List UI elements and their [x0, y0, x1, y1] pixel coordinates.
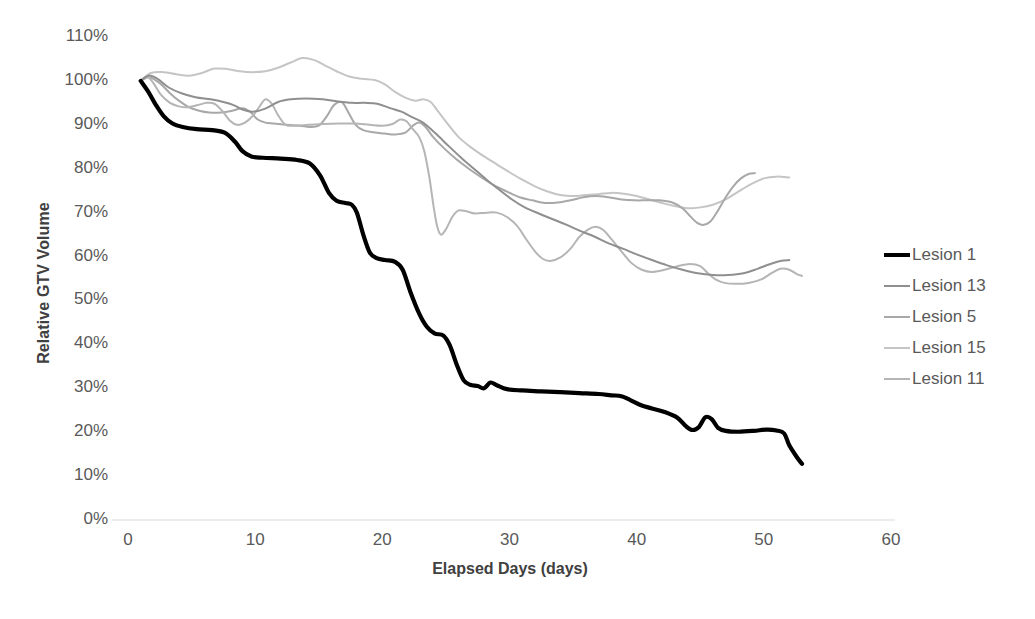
legend-item-label: Lesion 11 — [912, 369, 984, 389]
y-axis-tick-label: 20% — [34, 421, 108, 441]
x-axis-tick-label: 60 — [866, 530, 916, 550]
y-axis-tick-label: 100% — [34, 70, 108, 90]
legend-item-lesion-13[interactable]: Lesion 13 — [884, 271, 986, 300]
series-line-lesion-15 — [141, 58, 790, 208]
legend-swatch-icon — [884, 378, 910, 380]
legend-swatch-icon — [884, 347, 910, 349]
chart-legend: Lesion 1Lesion 13Lesion 5Lesion 15Lesion… — [884, 240, 986, 393]
legend-item-label: Lesion 15 — [912, 338, 986, 358]
series-line-lesion-13 — [141, 76, 790, 276]
legend-item-lesion-5[interactable]: Lesion 5 — [884, 302, 986, 331]
x-axis-tick-label: 40 — [612, 530, 662, 550]
y-axis-tick-label: 0% — [34, 509, 108, 529]
y-axis-tick-label: 90% — [34, 114, 108, 134]
y-axis-tick-label: 10% — [34, 465, 108, 485]
x-axis-tick-label: 50 — [739, 530, 789, 550]
x-axis-tick-label: 0 — [103, 530, 153, 550]
legend-item-lesion-1[interactable]: Lesion 1 — [884, 240, 986, 269]
x-axis-tick-label: 10 — [230, 530, 280, 550]
series-line-lesion-1 — [141, 81, 802, 464]
x-axis-tick-label: 20 — [357, 530, 407, 550]
legend-item-label: Lesion 5 — [912, 307, 976, 327]
legend-item-lesion-11[interactable]: Lesion 11 — [884, 364, 986, 393]
x-axis-tick-label: 30 — [485, 530, 535, 550]
legend-swatch-icon — [884, 285, 910, 287]
x-axis-title: Elapsed Days (days) — [120, 560, 900, 578]
legend-item-label: Lesion 1 — [912, 245, 976, 265]
legend-swatch-icon — [884, 316, 910, 318]
legend-swatch-icon — [884, 253, 910, 257]
line-chart-plot — [0, 0, 1035, 619]
y-axis-title: Relative GTV Volume — [35, 173, 53, 393]
legend-item-label: Lesion 13 — [912, 276, 986, 296]
y-axis-tick-label: 110% — [34, 26, 108, 46]
legend-item-lesion-15[interactable]: Lesion 15 — [884, 333, 986, 362]
chart-container: 0%10%20%30%40%50%60%70%80%90%100%110% 01… — [0, 0, 1035, 619]
